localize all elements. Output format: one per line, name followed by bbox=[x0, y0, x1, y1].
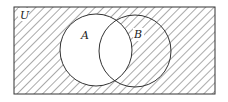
universe-label: U bbox=[20, 9, 30, 22]
venn-diagram: U A B bbox=[0, 0, 228, 102]
set-b-label: B bbox=[133, 28, 142, 41]
set-a-label: A bbox=[80, 29, 89, 42]
